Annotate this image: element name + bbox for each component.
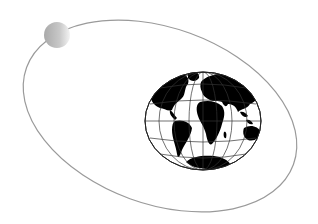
illustration: Globe with moon orbiting on elliptical p… [0,0,318,224]
globe-moon-orbit-graphic [0,0,318,224]
moon-icon [44,22,70,48]
globe-icon [145,72,261,170]
